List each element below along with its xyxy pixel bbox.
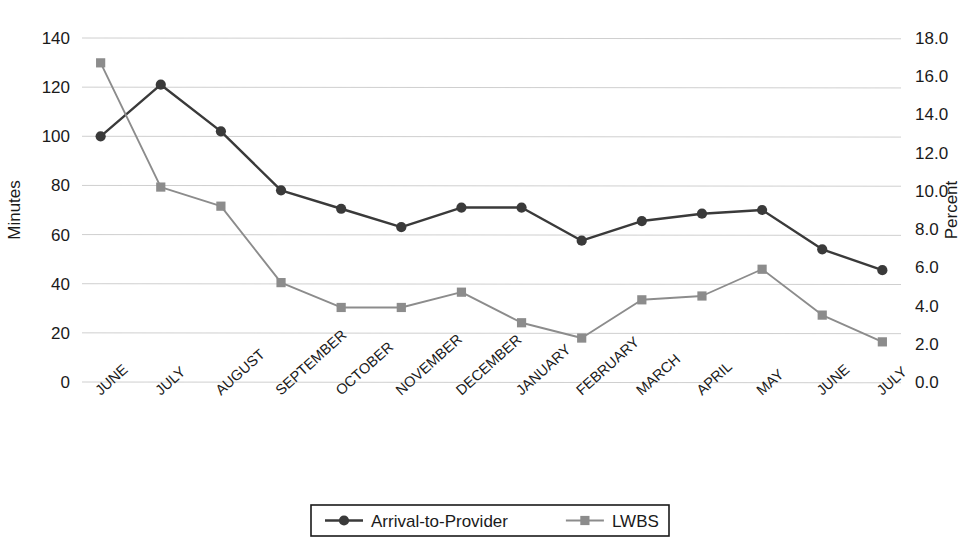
gridline	[82, 185, 901, 186]
legend-circle-marker-icon	[339, 515, 349, 525]
y2-axis-tick-label: 16.0	[915, 67, 948, 86]
x-axis-category-label: OCTOBER	[332, 339, 396, 399]
data-point-marker[interactable]	[637, 295, 646, 304]
data-point-marker[interactable]	[457, 288, 466, 297]
data-point-marker[interactable]	[276, 278, 285, 287]
data-point-marker[interactable]	[517, 318, 526, 327]
data-point-marker[interactable]	[216, 126, 226, 136]
y-axis-tick-label: 20	[51, 324, 70, 343]
x-axis-category-label: AUGUST	[212, 346, 268, 398]
y2-axis-tick-label: 0.0	[915, 373, 939, 392]
y2-axis-title: Percent	[942, 180, 961, 239]
data-point-marker[interactable]	[697, 209, 707, 219]
data-point-marker[interactable]	[637, 216, 647, 226]
data-point-marker[interactable]	[817, 244, 827, 254]
data-point-marker[interactable]	[156, 80, 166, 90]
x-axis-category-label: APRIL	[693, 358, 735, 398]
y-axis-tick-label: 0	[61, 373, 70, 392]
series-line-1	[101, 85, 883, 271]
data-point-marker[interactable]	[818, 311, 827, 320]
x-axis-category-label: JUNE	[814, 361, 853, 398]
gridline	[82, 333, 901, 334]
data-point-marker[interactable]	[878, 337, 887, 346]
data-point-marker[interactable]	[757, 265, 766, 274]
gridline	[82, 235, 901, 236]
x-axis-category-label: JULY	[152, 363, 189, 398]
x-axis-category-label: FEBRUARY	[573, 333, 642, 398]
data-point-marker[interactable]	[577, 236, 587, 246]
y-axis-title: Minutes	[5, 180, 24, 240]
data-point-marker[interactable]	[96, 58, 105, 67]
y2-axis-tick-label: 8.0	[915, 220, 939, 239]
x-axis-category-label: JULY	[874, 363, 911, 398]
y2-axis-tick-label: 4.0	[915, 297, 939, 316]
data-point-marker[interactable]	[96, 131, 106, 141]
y-axis-tick-label: 80	[51, 176, 70, 195]
y-axis-tick-label: 40	[51, 275, 70, 294]
gridline	[82, 136, 901, 137]
y-axis-tick-label: 100	[42, 127, 70, 146]
y-axis-tick-label: 120	[42, 78, 70, 97]
x-axis-category-label: MARCH	[633, 351, 683, 398]
data-point-marker[interactable]	[516, 202, 526, 212]
y2-axis-tick-label: 18.0	[915, 29, 948, 48]
y2-axis-tick-label: 12.0	[915, 144, 948, 163]
x-axis-category-label: JUNE	[92, 361, 131, 398]
gridline	[82, 38, 901, 39]
data-point-marker[interactable]	[697, 291, 706, 300]
legend-item-label[interactable]: Arrival-to-Provider	[371, 512, 508, 531]
y2-axis-tick-label: 14.0	[915, 105, 948, 124]
x-axis-category-label: MAY	[753, 366, 787, 398]
data-point-marker[interactable]	[276, 185, 286, 195]
data-point-marker[interactable]	[396, 222, 406, 232]
y2-axis-tick-label: 6.0	[915, 258, 939, 277]
data-point-marker[interactable]	[397, 303, 406, 312]
y-axis-tick-label: 140	[42, 29, 70, 48]
legend-item-label[interactable]: LWBS	[612, 512, 659, 531]
y-axis-tick-label: 60	[51, 226, 70, 245]
data-point-marker[interactable]	[877, 265, 887, 275]
data-point-marker[interactable]	[216, 202, 225, 211]
chart-canvas: 0204060801001201400.02.04.06.08.010.012.…	[0, 0, 978, 554]
data-point-marker[interactable]	[577, 333, 586, 342]
data-point-marker[interactable]	[757, 205, 767, 215]
x-axis-category-label: JANUARY	[513, 341, 574, 398]
gridline	[82, 284, 901, 285]
data-point-marker[interactable]	[336, 204, 346, 214]
y2-axis-tick-label: 2.0	[915, 335, 939, 354]
legend-square-marker-icon	[580, 516, 589, 525]
data-point-marker[interactable]	[337, 303, 346, 312]
data-point-marker[interactable]	[456, 202, 466, 212]
data-point-marker[interactable]	[156, 182, 165, 191]
chart-figure: 0204060801001201400.02.04.06.08.010.012.…	[0, 0, 978, 554]
gridline	[82, 87, 901, 88]
